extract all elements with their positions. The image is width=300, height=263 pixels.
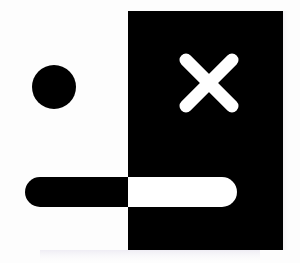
dot-circle[interactable] [32, 65, 76, 109]
right-edge-tint [283, 11, 291, 250]
bottom-shadow-tint [40, 250, 260, 263]
composition-svg [0, 0, 300, 263]
graphic-canvas: Abstract high-contrast icon composition [0, 0, 300, 263]
panel-rectangle[interactable] [128, 11, 283, 250]
